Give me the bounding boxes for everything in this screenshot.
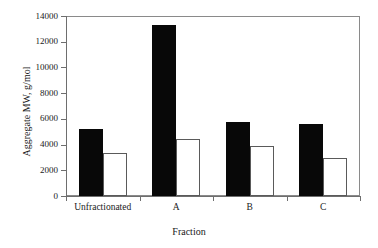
- y-tick: [61, 145, 66, 146]
- y-tick: [61, 93, 66, 94]
- bar-b-filled: [226, 122, 250, 196]
- y-axis-line: [66, 16, 67, 197]
- bar-b-open: [250, 146, 274, 196]
- x-tick: [360, 196, 361, 201]
- x-tick: [140, 196, 141, 201]
- category-label-b: B: [213, 202, 287, 213]
- y-tick-label: 14000: [20, 12, 58, 21]
- bar-unfractionated-open: [103, 153, 127, 196]
- category-label-unfractionated: Unfractionated: [66, 202, 140, 213]
- bar-c-open: [323, 158, 347, 196]
- category-label-c: C: [287, 202, 361, 213]
- x-tick: [287, 196, 288, 201]
- x-tick: [66, 196, 67, 201]
- y-tick: [61, 119, 66, 120]
- category-label-a: A: [140, 202, 214, 213]
- y-tick: [61, 16, 66, 17]
- bar-c-filled: [299, 124, 323, 196]
- x-axis-title: Fraction: [0, 226, 378, 237]
- bar-unfractionated-filled: [79, 129, 103, 196]
- y-tick: [61, 42, 66, 43]
- bar-a-open: [176, 139, 200, 196]
- y-axis-title: Aggregate MW, g/mol: [21, 42, 32, 182]
- bar-a-filled: [152, 25, 176, 196]
- y-tick: [61, 170, 66, 171]
- y-tick-label: 0: [20, 192, 58, 201]
- bar-chart-figure: 02000400060008000100001200014000 Aggrega…: [0, 0, 378, 248]
- x-tick: [213, 196, 214, 201]
- y-tick: [61, 67, 66, 68]
